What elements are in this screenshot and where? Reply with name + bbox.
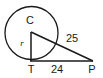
label-center-c: C — [26, 14, 34, 26]
label-radius-r: r — [20, 38, 24, 48]
geometry-canvas: C r T 24 P 25 — [0, 0, 103, 78]
label-point-p: P — [88, 63, 95, 75]
geometry-diagram: C r T 24 P 25 — [0, 0, 103, 78]
label-tangent-length-24: 24 — [51, 63, 63, 75]
label-point-t: T — [28, 63, 35, 75]
label-hypotenuse-length-25: 25 — [66, 32, 78, 44]
hypotenuse-segment-cp — [31, 32, 93, 61]
